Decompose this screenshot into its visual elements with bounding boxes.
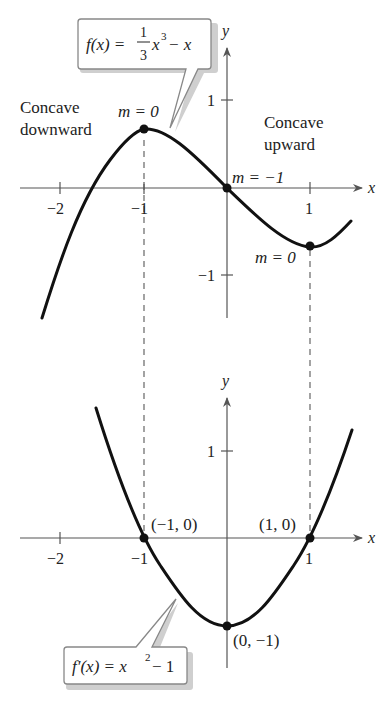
bottom-y-axis-label: y [220, 372, 230, 390]
tick-label-y-1: 1 [207, 92, 215, 109]
point-local-min [306, 242, 315, 251]
callout-f-prime-suffix: − 1 [152, 657, 174, 676]
tick-label-x-neg1: −1 [131, 200, 148, 217]
bottom-tick-label-x-1: 1 [305, 550, 313, 567]
callout-f-var: x [151, 35, 160, 54]
callout-f-prime: f′(x) = x 2 − 1 [64, 599, 193, 690]
bottom-graph: x y −2 −1 1 1 (−1, 0) (1, 0) (0, −1) f′(… [20, 372, 375, 690]
curve-f [42, 129, 351, 318]
figure: x y −2 −1 1 1 −1 Concave downward Concav… [0, 0, 390, 704]
bottom-tick-label-y-1: 1 [207, 443, 215, 460]
label-concave-upward-2: upward [264, 135, 315, 154]
label-concave-upward-1: Concave [264, 113, 323, 132]
callout-f-prefix: f(x) = [86, 35, 125, 54]
label-point-0-neg1: (0, −1) [233, 631, 279, 650]
point-root-neg1 [140, 534, 149, 543]
label-slope-max: m = 0 [118, 102, 159, 121]
point-local-max [140, 125, 149, 134]
top-graph: x y −2 −1 1 1 −1 Concave downward Concav… [20, 19, 375, 318]
label-slope-min: m = 0 [255, 248, 296, 267]
label-concave-downward-1: Concave [20, 98, 79, 117]
callout-f-exp: 3 [161, 30, 167, 42]
callout-f-suffix: − x [168, 35, 192, 54]
tick-label-y-neg1: −1 [198, 267, 215, 284]
svg-text:f(x) =: f(x) = [86, 35, 125, 54]
bottom-tick-label-x-neg1: −1 [131, 550, 148, 567]
callout-f-prime-exp: 2 [145, 651, 151, 663]
callout-f-frac-num: 1 [140, 25, 147, 40]
point-vertex [223, 622, 232, 631]
curve-f-prime-smooth [96, 408, 352, 626]
label-slope-origin: m = −1 [232, 168, 284, 187]
tick-label-x-1: 1 [305, 200, 313, 217]
tick-label-x-neg2: −2 [47, 200, 64, 217]
top-x-axis-label: x [367, 179, 375, 196]
label-concave-downward-2: downward [20, 120, 92, 139]
label-point-neg1-0: (−1, 0) [151, 515, 197, 534]
top-y-axis-label: y [220, 22, 230, 40]
point-origin [223, 184, 232, 193]
point-root-1 [306, 534, 315, 543]
callout-f-prime-prefix: f′(x) = x [72, 657, 127, 676]
label-point-1-0: (1, 0) [259, 515, 296, 534]
bottom-x-axis-label: x [367, 529, 375, 546]
callout-f-frac-den: 3 [140, 48, 147, 63]
bottom-tick-label-x-neg2: −2 [47, 550, 64, 567]
